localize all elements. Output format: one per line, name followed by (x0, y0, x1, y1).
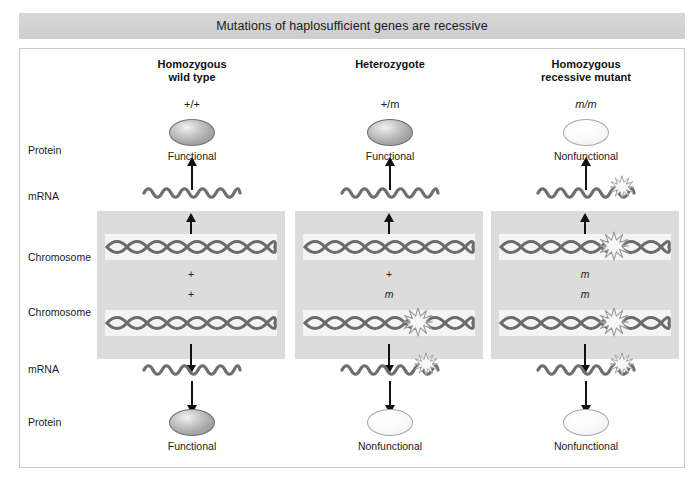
dna-band-bottom-col3 (499, 310, 671, 336)
column-header-heterozygote: Heterozygote +/m (295, 58, 485, 110)
column-genotype: +/+ (97, 98, 287, 110)
protein-ellipse-icon (367, 409, 413, 436)
translation-arrow-bottom-col1 (191, 381, 193, 406)
mutation-starburst-icon (414, 352, 438, 380)
mutation-starburst-icon (610, 175, 634, 203)
figure-haplosufficient-genes: Mutations of haplosufficient genes are r… (0, 0, 700, 484)
protein-ellipse-icon (169, 119, 215, 146)
protein-bottom-col3: Nonfunctional (491, 409, 681, 452)
translation-arrow-bottom-col3 (585, 381, 587, 406)
protein-ellipse-icon (169, 409, 215, 436)
cell-panel-col2: + m (295, 211, 483, 359)
mrna-bottom-col3 (491, 361, 681, 379)
cell-panel-col1: + + (97, 211, 285, 359)
column-name-line2: recessive mutant (541, 71, 631, 83)
allele-bottom-col3: m (491, 288, 679, 300)
protein-bottom-col1: Functional (97, 409, 287, 452)
figure-title-bar: Mutations of haplosufficient genes are r… (19, 13, 685, 39)
protein-caption: Nonfunctional (491, 440, 681, 452)
column-genotype: +/m (295, 98, 485, 110)
mrna-top-col1 (97, 184, 287, 202)
translation-arrow-bottom-col2 (389, 381, 391, 406)
column-name-line2: wild type (168, 71, 215, 83)
protein-top-col3: Nonfunctional (491, 119, 681, 162)
protein-caption: Nonfunctional (295, 440, 485, 452)
dna-band-bottom-col1 (105, 310, 277, 336)
column-name-line1: Homozygous (157, 58, 226, 70)
allele-bottom-col1: + (97, 288, 285, 300)
mrna-bottom-col2 (295, 361, 485, 379)
allele-top-col1: + (97, 268, 285, 280)
mrna-top-col3 (491, 184, 681, 202)
mrna-bottom-col1 (97, 361, 287, 379)
mutation-starburst-icon (599, 307, 629, 341)
protein-caption: Functional (97, 440, 287, 452)
protein-top-col1: Functional (97, 119, 287, 162)
column-name-line1: Heterozygote (355, 58, 425, 70)
column-genotype: m/m (491, 98, 681, 110)
cell-panel-col3: m m (491, 211, 679, 359)
figure-title: Mutations of haplosufficient genes are r… (216, 19, 487, 33)
column-header-homozygous-wild-type: Homozygouswild type +/+ (97, 58, 287, 110)
protein-ellipse-icon (563, 119, 609, 146)
protein-bottom-col2: Nonfunctional (295, 409, 485, 452)
mrna-top-col2 (295, 184, 485, 202)
mutation-starburst-icon (610, 352, 634, 380)
mutation-starburst-icon (403, 307, 433, 341)
allele-bottom-col2: m (295, 288, 483, 300)
protein-ellipse-icon (563, 409, 609, 436)
dna-band-top-col2 (303, 234, 475, 260)
protein-top-col2: Functional (295, 119, 485, 162)
dna-band-bottom-col2 (303, 310, 475, 336)
dna-band-top-col3 (499, 234, 671, 260)
allele-top-col2: + (295, 268, 483, 280)
protein-ellipse-icon (367, 119, 413, 146)
dna-band-top-col1 (105, 234, 277, 260)
column-name-line1: Homozygous (551, 58, 620, 70)
column-header-homozygous-recessive-mutant: Homozygousrecessive mutant m/m (491, 58, 681, 110)
mutation-starburst-icon (599, 231, 629, 265)
allele-top-col3: m (491, 268, 679, 280)
